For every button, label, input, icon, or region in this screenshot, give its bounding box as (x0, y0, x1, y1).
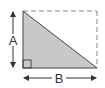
label-b: B (55, 71, 64, 86)
label-a: A (9, 33, 18, 48)
right-triangle (23, 11, 97, 68)
right-triangle-diagram: A B (0, 0, 105, 88)
